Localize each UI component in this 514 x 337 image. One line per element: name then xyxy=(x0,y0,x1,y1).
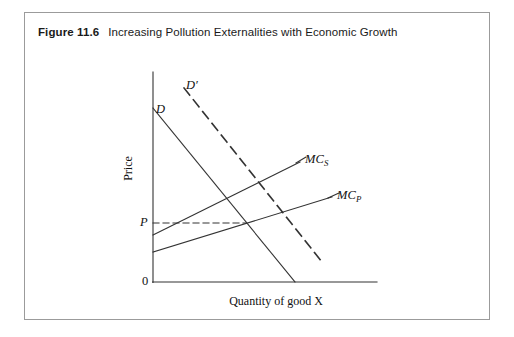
marginal-social-cost-curve xyxy=(153,162,300,235)
mcp-subscript: P xyxy=(356,194,361,204)
curve-label-mcs: MCS xyxy=(305,153,328,166)
mcp-base-text: MC xyxy=(337,188,356,202)
marginal-private-cost-curve xyxy=(153,197,332,252)
curve-label-d: D xyxy=(156,103,165,116)
price-axis-tick-label-p: P xyxy=(140,216,148,229)
curve-label-mcp: MCP xyxy=(337,189,361,202)
demand-curve-d xyxy=(153,108,295,282)
economics-supply-demand-chart xyxy=(0,0,514,337)
y-axis-title: Price xyxy=(121,142,136,196)
origin-label: 0 xyxy=(142,275,148,288)
mcs-subscript: S xyxy=(324,158,328,168)
figure-page: Figure 11.6Increasing Pollution External… xyxy=(0,0,514,337)
mcs-base-text: MC xyxy=(305,152,324,166)
x-axis-title: Quantity of good X xyxy=(186,294,366,309)
curve-label-d-prime: D′ xyxy=(186,79,198,92)
